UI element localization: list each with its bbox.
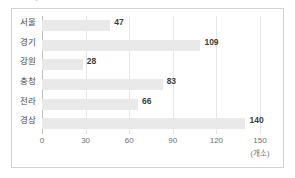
axis-unit-label: (개소) bbox=[251, 147, 270, 158]
category-label: 전라 bbox=[20, 96, 36, 107]
clipped-header-strip: ● bbox=[0, 0, 295, 6]
plot-area: 서울47경기109강원28충청83전라66경상140 bbox=[42, 16, 260, 134]
category-label: 충청 bbox=[20, 76, 36, 87]
bar-row[interactable]: 경상140 bbox=[42, 114, 260, 134]
bar-fill bbox=[42, 118, 245, 129]
x-tick-label-30: 30 bbox=[81, 136, 90, 145]
x-tick-label-120: 120 bbox=[210, 136, 223, 145]
bar-fill bbox=[42, 99, 138, 110]
category-label: 강원 bbox=[20, 56, 36, 67]
bar-row[interactable]: 서울47 bbox=[42, 16, 260, 36]
bar-fill bbox=[42, 40, 200, 51]
bar-value-label: 66 bbox=[142, 96, 151, 107]
bar[interactable] bbox=[42, 118, 245, 129]
x-tick-label-150: 150 bbox=[253, 136, 266, 145]
bar[interactable] bbox=[42, 40, 200, 51]
x-tick-label-60: 60 bbox=[125, 136, 134, 145]
bar-value-label: 140 bbox=[249, 115, 263, 126]
bar[interactable] bbox=[42, 99, 138, 110]
bar-fill bbox=[42, 59, 83, 70]
bar[interactable] bbox=[42, 79, 163, 90]
x-axis: (개소) 0306090120150 bbox=[42, 134, 260, 164]
category-label: 서울 bbox=[20, 17, 36, 28]
bar-value-label: 83 bbox=[167, 76, 176, 87]
bar-fill bbox=[42, 20, 110, 31]
clipped-header-text: ● bbox=[34, 0, 60, 3]
bar-row[interactable]: 전라66 bbox=[42, 95, 260, 115]
x-tick-label-0: 0 bbox=[40, 136, 44, 145]
bar-fill bbox=[42, 79, 163, 90]
bar[interactable] bbox=[42, 59, 83, 70]
bar-row[interactable]: 강원28 bbox=[42, 55, 260, 75]
bar-row[interactable]: 경기109 bbox=[42, 36, 260, 56]
chart-card: 서울47경기109강원28충청83전라66경상140 (개소) 03060901… bbox=[11, 8, 284, 168]
x-tick-label-90: 90 bbox=[168, 136, 177, 145]
bar-value-label: 28 bbox=[87, 56, 96, 67]
bar-value-label: 47 bbox=[114, 17, 123, 28]
category-label: 경상 bbox=[20, 115, 36, 126]
bar[interactable] bbox=[42, 20, 110, 31]
bar-row[interactable]: 충청83 bbox=[42, 75, 260, 95]
category-label: 경기 bbox=[20, 37, 36, 48]
bar-value-label: 109 bbox=[204, 37, 218, 48]
